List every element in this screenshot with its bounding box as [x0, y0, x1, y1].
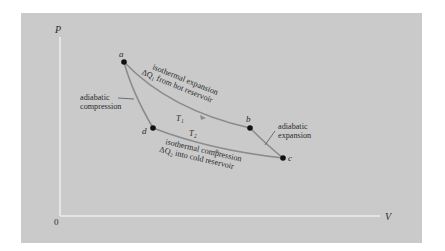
point-b-label: b: [246, 114, 251, 124]
x-axis-label: V: [385, 211, 393, 222]
da-label-line1: adiabatic: [80, 93, 110, 102]
point-c-label: c: [288, 153, 292, 163]
carnot-cycle-diagram: P V 0 a b c d isothermal expansion ΔQ₁ f…: [0, 0, 445, 251]
point-d-label: d: [142, 126, 147, 136]
point-b: [247, 125, 253, 131]
da-label-line2: compression: [80, 102, 121, 111]
cd-temperature-label: T₂: [189, 128, 197, 138]
point-a: [121, 59, 127, 65]
origin-label: 0: [54, 217, 59, 227]
ab-temperature-label: T₁: [176, 113, 184, 123]
point-c: [280, 155, 286, 161]
leader-da: [118, 98, 134, 99]
point-d: [150, 125, 156, 131]
point-a-label: a: [119, 49, 124, 59]
arrow-ab-icon: [200, 115, 206, 120]
leader-bc: [265, 131, 275, 145]
bc-label-line1: adiabatic: [278, 122, 308, 131]
y-axis-label: P: [54, 24, 61, 35]
bc-label-line2: expansion: [278, 131, 311, 140]
